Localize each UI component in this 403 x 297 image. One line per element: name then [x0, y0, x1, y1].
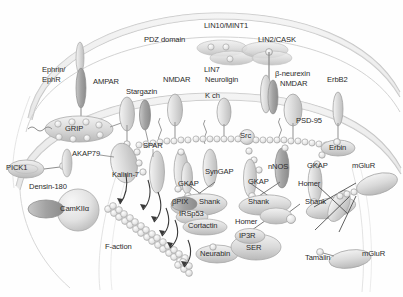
label-erbb2: ErbB2 — [327, 76, 348, 84]
label-syngap: SynGAP — [205, 168, 234, 176]
label-kalirin7: Kalirin-7 — [112, 171, 139, 179]
label-gkap-right: GKAP — [307, 162, 328, 170]
label-src: Src — [240, 132, 251, 140]
label-erbin: Erbin — [329, 144, 346, 152]
label-ephrin-ephr-line2: EphR — [42, 76, 61, 85]
kalirin7-protein — [140, 169, 146, 175]
label-neuroligin: Neuroligin — [205, 76, 238, 84]
label-nnos: nNOS — [268, 163, 288, 171]
beta-neurexin-protein — [261, 75, 279, 114]
neuroligin-protein — [217, 98, 231, 140]
label-f-actin: F-action — [105, 243, 132, 251]
label-akap79: AKAP79 — [72, 150, 100, 158]
stargazin-protein — [140, 100, 151, 141]
label-neurabin: Neurabin — [200, 250, 230, 258]
label-camkii: CamKIIα — [60, 205, 89, 213]
ampar-receptor — [120, 97, 135, 147]
label-ser: SER — [246, 244, 261, 252]
label-homer-mid: Homer — [235, 218, 257, 226]
ephrin-ephr-receptor — [76, 42, 86, 128]
label-pdz-domain: PDZ domain — [144, 36, 185, 44]
label-bpix: βPIX — [172, 198, 188, 206]
label-lin10-mint1: LIN10/MINT1 — [204, 22, 248, 30]
label-shank-mid: Shank — [248, 198, 269, 206]
label-lin7: LIN7 — [204, 66, 220, 74]
label-grip: GRIP — [65, 125, 83, 133]
label-mglur-top: mGluR — [352, 162, 375, 170]
label-nmdar-left: NMDAR — [163, 76, 190, 84]
label-mglur-bottom: mGluR — [362, 250, 385, 258]
label-beta-neurexin: β-neurexin — [275, 70, 310, 78]
label-pick1: PICK1 — [6, 164, 27, 172]
label-ephrin-ephr-line1: Ephrin/ — [42, 66, 65, 75]
label-nmdar-right: NMDAR — [280, 80, 307, 88]
mglur-top-receptor — [354, 169, 400, 200]
label-shank-right: Shank — [305, 198, 326, 206]
label-gkap-mid: GKAP — [248, 178, 269, 186]
label-stargazin: Stargazin — [126, 88, 157, 96]
label-ampar: AMPAR — [93, 78, 119, 86]
label-lin2-cask: LIN2/CASK — [258, 36, 296, 44]
label-densin-180: Densin-180 — [29, 183, 67, 191]
figure-canvas: LIN10/MINT1 PDZ domain LIN2/CASK LIN7 Ep… — [0, 0, 403, 297]
label-psd95: PSD-95 — [296, 117, 322, 125]
label-cortactin: Cortactin — [188, 222, 218, 230]
label-homer-right: Homer — [298, 180, 320, 188]
label-tamalin: Tamalin — [305, 254, 330, 262]
label-ip3r: IP3R — [239, 232, 255, 240]
psd95-chain — [136, 136, 329, 148]
label-irsp53: IRSp53 — [179, 210, 204, 218]
erbb2-receptor — [333, 92, 343, 140]
spar-protein — [150, 149, 165, 193]
label-shank-left: Shank — [199, 198, 220, 206]
label-kch: K ch — [205, 92, 220, 100]
label-gkap-left: GKAP — [178, 180, 199, 188]
label-spar: SPAR — [143, 142, 163, 150]
